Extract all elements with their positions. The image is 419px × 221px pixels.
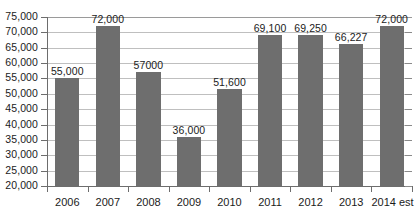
x-axis-tick [412,186,413,192]
y-axis-tick-label: 65,000 [5,42,38,53]
y-axis-tick-label: 25,000 [5,165,38,176]
bar-value-label: 72,000 [375,14,408,25]
bar-group: 66,227 [331,17,372,186]
bar-value-label: 69,250 [294,23,327,34]
right-axis-tick [405,186,412,187]
y-axis-tick-label: 30,000 [5,149,38,160]
y-axis-tick-label: 60,000 [5,57,38,68]
bar [217,89,241,186]
bar-value-label: 69,100 [254,23,287,34]
bar-group: 72,000 [88,17,129,186]
bar [258,35,282,186]
bar-group: 69,100 [250,17,291,186]
plot-area: 55,00072,0005700036,00051,60069,10069,25… [47,17,412,186]
x-axis-tick [209,186,210,192]
x-axis-tick [250,186,251,192]
x-axis-tick [331,186,332,192]
x-axis-tick-label: 2008 [128,196,169,208]
y-axis-tick-label: 40,000 [5,119,38,130]
y-axis-tick-label: 70,000 [5,26,38,37]
bar [177,137,201,186]
x-axis-tick [47,186,48,192]
bar-value-label: 72,000 [91,14,124,25]
bar [55,78,79,186]
x-axis-tick [128,186,129,192]
x-axis-tick-label: 2007 [88,196,129,208]
x-axis-tick [371,186,372,192]
x-axis-tick [88,186,89,192]
bar-chart: 75,00070,00065,00060,00055,00050,00045,0… [0,0,419,221]
x-axis-tick-label: 2010 [209,196,250,208]
y-axis-tick-label: 35,000 [5,134,38,145]
x-axis-tick-label: 2011 [250,196,291,208]
bar-value-label: 57000 [134,60,164,71]
bar-value-label: 36,000 [173,125,206,136]
y-axis-tick-label: 45,000 [5,103,38,114]
y-axis-tick-label: 20,000 [5,180,38,191]
bar [298,35,322,186]
bar-group: 36,000 [169,17,210,186]
y-axis-tick-label: 55,000 [5,72,38,83]
bar-group: 51,600 [209,17,250,186]
bar-value-label: 55,000 [51,66,84,77]
x-axis-tick-label: 2014 est [371,196,412,208]
x-axis-tick-label: 2006 [47,196,88,208]
bar-group: 57000 [128,17,169,186]
x-axis-tick-label: 2009 [169,196,210,208]
y-axis-tick-label: 50,000 [5,88,38,99]
x-axis-tick-label: 2013 [331,196,372,208]
x-axis-tick [169,186,170,192]
bar-group: 69,250 [290,17,331,186]
x-axis-tick [290,186,291,192]
bar [339,44,363,186]
bar-group: 72,000 [371,17,412,186]
bar [136,72,160,186]
bar-group: 55,000 [47,17,88,186]
x-axis-tick-label: 2012 [290,196,331,208]
x-axis-line [47,186,413,187]
bar-value-label: 51,600 [213,77,246,88]
bar-value-label: 66,227 [335,32,368,43]
bar [380,26,404,186]
y-axis-tick-label: 75,000 [5,11,38,22]
bar [96,26,120,186]
